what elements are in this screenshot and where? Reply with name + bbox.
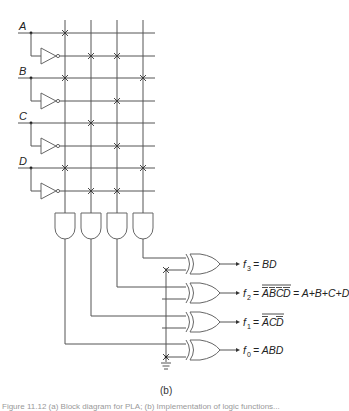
fuse-marks	[62, 30, 146, 194]
svg-text:= BD: = BD	[253, 258, 277, 270]
svg-text:B: B	[269, 287, 276, 299]
product-columns	[65, 20, 143, 208]
svg-text:D: D	[276, 316, 284, 328]
figure-caption: Figure 11.12 (a) Block diagram for PLA; …	[2, 402, 280, 411]
and-gates	[55, 208, 153, 239]
input-label-a: A	[18, 20, 26, 32]
ground-icon	[161, 363, 171, 369]
svg-text:D: D	[283, 287, 291, 299]
svg-text:= ABD: = ABD	[253, 344, 284, 356]
pla-diagram: A B C D	[0, 0, 349, 411]
output-f3: f 3 = BD	[243, 258, 277, 272]
output-f0: f 0 = ABD	[243, 344, 284, 358]
svg-text:=: =	[253, 316, 259, 328]
panel-label: (b)	[160, 385, 172, 396]
svg-text:= A+B+C+D: = A+B+C+D	[293, 287, 349, 299]
input-label-b: B	[19, 65, 26, 77]
svg-text:1: 1	[247, 323, 251, 330]
xor-gate-f2	[186, 283, 240, 303]
svg-text:=: =	[253, 287, 259, 299]
svg-text:3: 3	[247, 265, 251, 272]
svg-text:A: A	[261, 316, 269, 328]
xor-gate-f1	[186, 312, 240, 332]
output-f1: f 1 = A C D	[243, 314, 284, 330]
xor-gate-f0	[186, 340, 240, 360]
svg-text:2: 2	[247, 294, 251, 301]
svg-text:A: A	[261, 287, 269, 299]
svg-text:0: 0	[247, 351, 251, 358]
output-f2: f 2 = A B C D = A+B+C+D	[243, 285, 349, 301]
input-label-c: C	[19, 110, 27, 122]
input-lines	[18, 32, 155, 199]
xor-gates	[186, 254, 240, 360]
xor-gate-f3	[186, 254, 240, 274]
xor-control-bus	[161, 267, 186, 369]
input-label-d: D	[19, 155, 27, 167]
